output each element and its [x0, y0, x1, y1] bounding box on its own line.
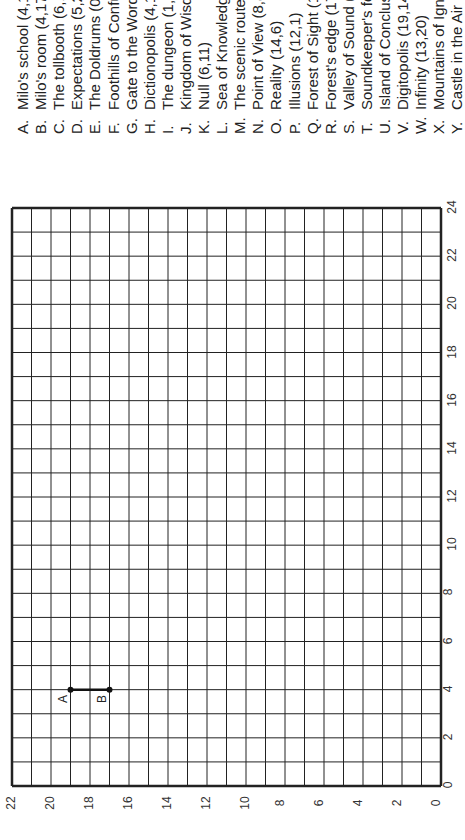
coordinate-grid — [0, 0, 465, 840]
x-axis-tick: 4 — [441, 685, 455, 692]
grid-lines — [0, 0, 465, 840]
x-axis-tick: 10 — [445, 537, 459, 550]
y-axis-tick: 20 — [43, 796, 57, 809]
y-axis-tick: 16 — [121, 796, 135, 809]
y-axis-tick: 12 — [199, 796, 213, 809]
y-axis-tick: 8 — [273, 800, 287, 807]
x-axis-tick: 6 — [441, 637, 455, 644]
x-axis-tick: 12 — [445, 489, 459, 502]
point-label: A — [56, 695, 70, 703]
x-axis-tick: 8 — [441, 589, 455, 596]
x-axis-tick: 0 — [441, 782, 455, 789]
y-axis-tick: 2 — [390, 800, 404, 807]
x-axis-tick: 22 — [445, 248, 459, 261]
y-axis-tick: 0 — [429, 800, 443, 807]
point-label: B — [95, 695, 109, 703]
y-axis-tick: 10 — [238, 796, 252, 809]
x-axis-tick: 18 — [445, 345, 459, 358]
y-axis-tick: 14 — [160, 796, 174, 809]
point-a — [68, 687, 74, 693]
y-axis-tick: 4 — [351, 800, 365, 807]
y-axis-tick: 22 — [4, 796, 18, 809]
x-axis-tick: 16 — [445, 393, 459, 406]
point-b — [107, 687, 113, 693]
x-axis-tick: 2 — [441, 733, 455, 740]
x-axis-tick: 24 — [445, 200, 459, 213]
x-axis-tick: 14 — [445, 441, 459, 454]
x-axis-tick: 20 — [445, 297, 459, 310]
y-axis-tick: 18 — [82, 796, 96, 809]
y-axis-tick: 6 — [312, 800, 326, 807]
